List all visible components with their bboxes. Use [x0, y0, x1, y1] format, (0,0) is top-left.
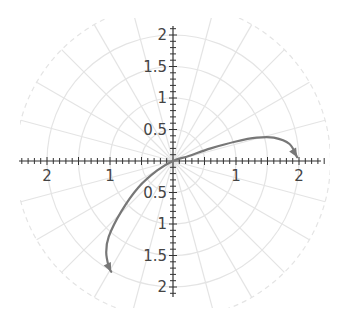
- grid-radial-line: [173, 120, 325, 161]
- x-tick-label: 2: [42, 167, 52, 185]
- x-tick-label: 2: [294, 167, 304, 185]
- x-tick-label: 1: [231, 167, 241, 185]
- y-tick-label: 0.5: [143, 184, 167, 202]
- y-tick-label: 1.5: [143, 58, 167, 76]
- y-tick-label: 2: [157, 278, 167, 296]
- grid-radial-line: [173, 161, 309, 240]
- grid-radial-line: [173, 161, 214, 313]
- y-tick-label: 1: [157, 215, 167, 233]
- polar-plot: 211221.510.50.511.52: [0, 0, 344, 319]
- y-tick-label: 2: [157, 26, 167, 44]
- grid-radial-line: [173, 9, 214, 161]
- y-tick-label: 1: [157, 89, 167, 107]
- grid-radial-line: [173, 161, 284, 272]
- grid-radial-line: [173, 82, 309, 161]
- x-tick-label: 1: [105, 167, 115, 185]
- y-tick-label: 1.5: [143, 247, 167, 265]
- y-tick-label: 0.5: [143, 121, 167, 139]
